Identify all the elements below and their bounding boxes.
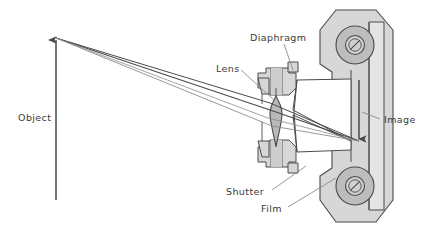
label-film: Film xyxy=(261,203,282,214)
film-roller-top xyxy=(336,26,374,64)
lens-mount-wedge-upper xyxy=(258,78,269,94)
label-object: Object xyxy=(18,112,51,123)
diagram-canvas: Object Lens Diaphragm Shutter Film Image xyxy=(0,0,427,233)
lens-barrel-upper-shadefill xyxy=(271,68,282,95)
diaphragm-cap-upper xyxy=(288,62,298,72)
film-roller-bottom xyxy=(336,167,374,205)
camera-body-group xyxy=(293,10,393,222)
camera-optics-diagram: Object Lens Diaphragm Shutter Film Image xyxy=(0,0,427,233)
diaphragm-cap-lower xyxy=(288,163,298,173)
label-shutter: Shutter xyxy=(226,186,264,197)
label-lens: Lens xyxy=(216,63,240,74)
label-image: Image xyxy=(384,114,416,125)
label-diaphragm: Diaphragm xyxy=(250,32,306,43)
